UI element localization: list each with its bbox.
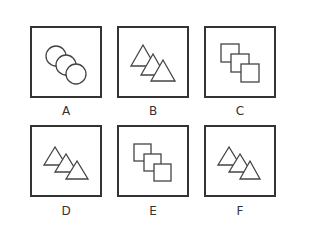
three-squares-icon <box>117 125 189 197</box>
option-panel-c[interactable] <box>204 26 276 98</box>
option-panel-b[interactable] <box>117 26 189 98</box>
three-squares-icon <box>204 26 276 98</box>
option-label-a: A <box>30 104 102 118</box>
three-triangles-icon <box>204 125 276 197</box>
three-circles-icon <box>30 26 102 98</box>
three-triangles-icon <box>30 125 102 197</box>
option-label-b: B <box>117 104 189 118</box>
option-panel-e[interactable] <box>117 125 189 197</box>
option-label-f: F <box>204 204 276 218</box>
option-panel-a[interactable] <box>30 26 102 98</box>
option-panel-d[interactable] <box>30 125 102 197</box>
option-label-d: D <box>30 204 102 218</box>
option-panel-f[interactable] <box>204 125 276 197</box>
three-triangles-icon <box>117 26 189 98</box>
option-label-c: C <box>204 104 276 118</box>
option-label-e: E <box>117 204 189 218</box>
